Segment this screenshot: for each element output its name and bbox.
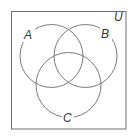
set-c-circle — [36, 53, 101, 118]
set-a-label: A — [23, 28, 32, 42]
universe-label: U — [114, 10, 123, 24]
set-b-label: B — [101, 27, 109, 41]
set-c-label: C — [63, 111, 72, 125]
venn-diagram: U A B C — [0, 0, 133, 136]
